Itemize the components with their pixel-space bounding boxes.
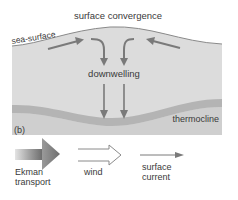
surface-current-arrow-icon bbox=[140, 152, 184, 158]
ekman-label-line1: Ekman bbox=[15, 167, 43, 177]
ekman-transport-arrow-icon bbox=[15, 138, 60, 170]
thermocline-label: thermocline bbox=[172, 114, 219, 124]
downwelling-diagram: surface convergence sea-surface downwell… bbox=[0, 0, 238, 200]
ekman-label-line2: transport bbox=[15, 177, 51, 187]
wind-arrow-icon bbox=[78, 145, 121, 165]
title-surface-convergence: surface convergence bbox=[74, 10, 162, 21]
surface-current-label-line1: surface bbox=[142, 162, 172, 172]
downwelling-label: downwelling bbox=[88, 68, 140, 79]
surface-current-label-line2: current bbox=[142, 172, 171, 182]
wind-label: wind bbox=[83, 167, 103, 177]
panel-label: (b) bbox=[14, 125, 25, 135]
